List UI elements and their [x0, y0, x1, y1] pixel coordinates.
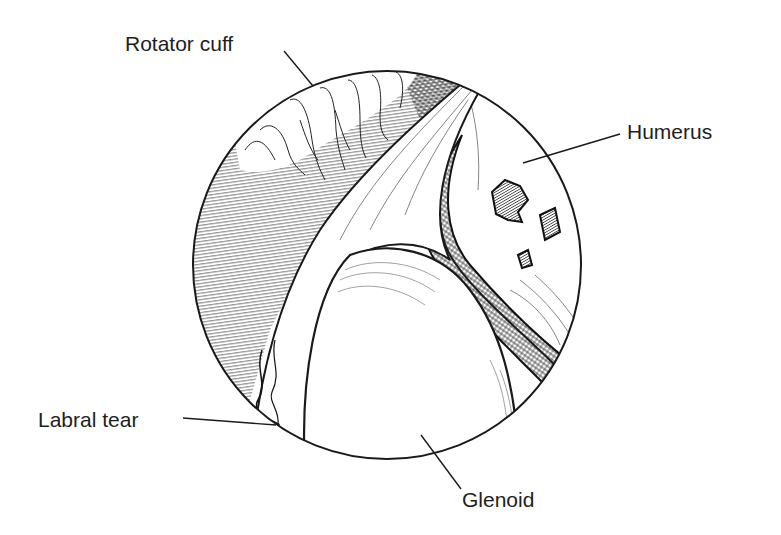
scope-field — [190, 68, 600, 470]
labral-tear-leader-line — [183, 418, 276, 425]
label-glenoid: Glenoid — [462, 489, 534, 510]
arthroscopic-view-drawing — [0, 0, 781, 535]
label-labral-tear: Labral tear — [38, 409, 138, 430]
label-rotator-cuff: Rotator cuff — [125, 33, 233, 54]
rotator-cuff-leader-line — [284, 51, 313, 86]
label-humerus: Humerus — [627, 121, 712, 142]
